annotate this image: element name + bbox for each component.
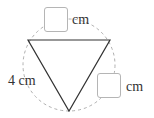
right-side-unit-label: cm — [126, 80, 143, 94]
right-side-answer-box[interactable] — [97, 73, 121, 98]
top-side-unit-label: cm — [72, 13, 89, 27]
top-side-answer-box[interactable] — [44, 7, 68, 32]
left-side-length-label: 4 cm — [8, 74, 36, 88]
